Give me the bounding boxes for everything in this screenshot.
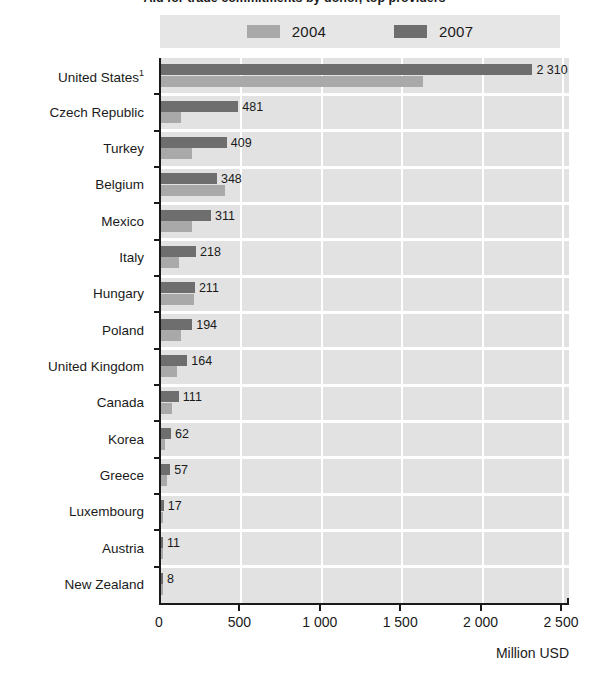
y-axis-label-canada: Canada <box>0 396 144 410</box>
grid-line-horizontal <box>161 384 569 387</box>
bar-value-label: 481 <box>242 101 263 114</box>
legend-label-2004: 2004 <box>292 23 326 40</box>
bar-value-label: 17 <box>168 500 182 513</box>
y-axis-tick <box>154 493 160 495</box>
bar-2007-united-kingdom <box>161 355 187 366</box>
grid-line-horizontal <box>161 238 569 241</box>
bar-2004-czech-republic <box>161 112 181 123</box>
y-axis-label-korea: Korea <box>0 433 144 447</box>
x-axis-end-cap <box>159 598 161 605</box>
bar-2004-united-kingdom <box>161 366 177 377</box>
bar-2004-austria <box>161 548 163 559</box>
grid-line-horizontal <box>161 166 569 169</box>
y-axis-label-united-kingdom: United Kingdom <box>0 360 144 374</box>
grid-line-horizontal <box>161 529 569 532</box>
bar-2007-italy <box>161 246 196 257</box>
x-axis-tick-label: 0 <box>155 614 163 630</box>
x-axis-tick <box>560 605 562 611</box>
chart-area: United States1Czech RepublicTurkeyBelgiu… <box>0 58 589 618</box>
legend-item-2007: 2007 <box>394 23 473 40</box>
y-axis-tick <box>154 202 160 204</box>
y-axis-label-luxembourg: Luxembourg <box>0 505 144 519</box>
bar-2007-poland <box>161 319 192 330</box>
aid-for-trade-bar-chart-figure: Aid for trade commitments by donor, top … <box>0 0 589 678</box>
bar-2007-greece <box>161 464 170 475</box>
y-axis-label-mexico: Mexico <box>0 215 144 229</box>
bar-2004-poland <box>161 330 181 341</box>
bar-2004-italy <box>161 257 179 268</box>
bar-value-label: 409 <box>231 137 252 150</box>
bar-2007-mexico <box>161 210 211 221</box>
bar-value-label: 2 310 <box>536 64 567 77</box>
y-axis-tick <box>154 529 160 531</box>
y-axis-tick <box>154 93 160 95</box>
x-axis-tick-label: 1 500 <box>383 614 418 630</box>
footnote-marker: 1 <box>139 68 144 78</box>
y-axis-tick <box>154 311 160 313</box>
bar-value-label: 57 <box>174 464 188 477</box>
y-axis-category-labels: United States1Czech RepublicTurkeyBelgiu… <box>0 58 152 603</box>
y-axis-label-hungary: Hungary <box>0 287 144 301</box>
bar-value-label: 111 <box>183 391 202 404</box>
grid-line-horizontal <box>161 275 569 278</box>
grid-line-vertical <box>562 58 564 603</box>
bar-2007-turkey <box>161 137 227 148</box>
x-axis-end-cap <box>567 598 569 605</box>
y-axis-tick <box>154 275 160 277</box>
grid-line-vertical <box>482 58 484 603</box>
bar-2007-belgium <box>161 173 217 184</box>
bar-2004-canada <box>161 403 172 414</box>
grid-line-horizontal <box>161 202 569 205</box>
bar-2004-turkey <box>161 148 192 159</box>
bar-value-label: 211 <box>199 282 219 295</box>
y-axis-label-greece: Greece <box>0 469 144 483</box>
legend-label-2007: 2007 <box>439 23 473 40</box>
figure-title-strip: Aid for trade commitments by donor, top … <box>0 0 589 11</box>
x-axis-tick <box>319 605 321 611</box>
grid-line-horizontal <box>161 347 569 350</box>
x-axis-tick <box>399 605 401 611</box>
y-axis-label-united-states: United States1 <box>0 69 144 84</box>
bar-2004-belgium <box>161 185 225 196</box>
bar-2007-hungary <box>161 282 195 293</box>
y-axis-label-new-zealand: New Zealand <box>0 578 144 592</box>
y-axis-tick <box>154 420 160 422</box>
grid-line-horizontal <box>161 493 569 496</box>
x-axis-tick-label: 1 000 <box>302 614 337 630</box>
legend-swatch-2004-icon <box>247 25 280 38</box>
grid-line-horizontal <box>161 311 569 314</box>
bar-2007-new-zealand <box>161 573 163 584</box>
bar-2007-korea <box>161 428 171 439</box>
bar-value-label: 62 <box>175 428 189 441</box>
x-axis-tick-label: 500 <box>228 614 251 630</box>
bar-2004-korea <box>161 439 165 450</box>
bar-2004-united-states <box>161 76 423 87</box>
grid-line-horizontal <box>161 420 569 423</box>
chart-legend: 2004 2007 <box>160 15 560 48</box>
bar-value-label: 311 <box>215 210 235 223</box>
x-axis-tick <box>480 605 482 611</box>
bar-2004-luxembourg <box>161 512 163 523</box>
grid-line-horizontal <box>161 129 569 132</box>
y-axis-tick <box>154 348 160 350</box>
y-axis-label-poland: Poland <box>0 324 144 338</box>
bar-value-label: 11 <box>167 537 180 550</box>
y-axis-tick <box>154 384 160 386</box>
y-axis-tick <box>154 239 160 241</box>
bar-2004-new-zealand <box>161 584 163 595</box>
x-axis-tick-label: 2 500 <box>543 614 578 630</box>
legend-swatch-2007-icon <box>394 25 427 38</box>
x-axis-line <box>159 603 569 605</box>
bar-2007-canada <box>161 391 179 402</box>
y-axis-label-austria: Austria <box>0 542 144 556</box>
x-axis-tick-label: 2 000 <box>463 614 498 630</box>
grid-line-horizontal <box>161 93 569 96</box>
grid-line-vertical <box>321 58 323 603</box>
grid-line-horizontal <box>161 565 569 568</box>
figure-title: Aid for trade commitments by donor, top … <box>0 0 589 5</box>
grid-line-vertical <box>401 58 403 603</box>
plot-area: 2 31048140934831121821119416411162571711… <box>159 58 569 603</box>
legend-item-2004: 2004 <box>247 23 326 40</box>
x-axis-unit-label: Million USD <box>496 645 569 661</box>
bar-value-label: 8 <box>167 573 174 586</box>
